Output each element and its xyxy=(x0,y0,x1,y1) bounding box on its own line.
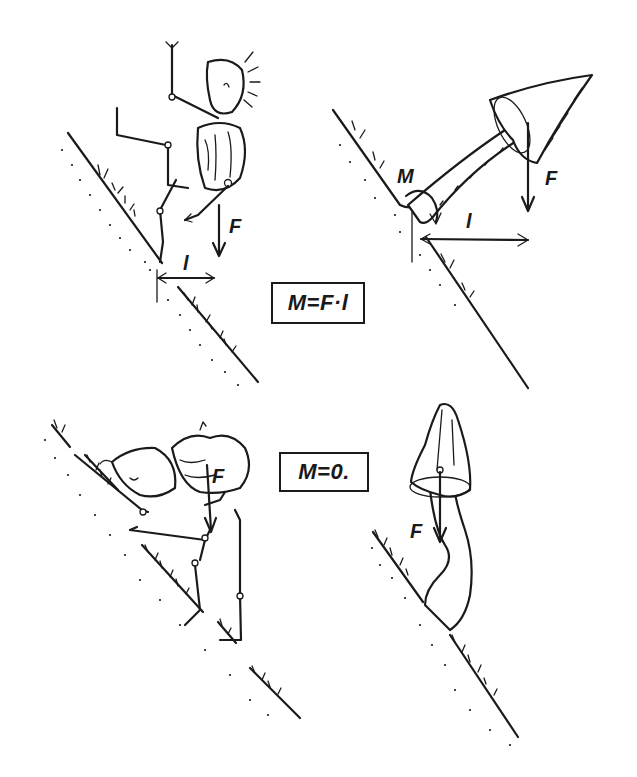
head xyxy=(112,448,175,497)
formula-moment-nonzero: M=F·l xyxy=(271,282,365,324)
slope-line xyxy=(333,110,420,208)
formula-moment-zero: M=0. xyxy=(279,452,369,492)
hair-spikes xyxy=(244,52,260,107)
backpack xyxy=(172,436,249,493)
force-label: F xyxy=(229,215,242,237)
mushroom-upright-panel: F xyxy=(371,404,518,746)
head xyxy=(207,60,244,114)
mushroom-cap xyxy=(490,75,592,163)
lever-arm-label: l xyxy=(466,210,472,232)
mushroom-stem xyxy=(408,130,518,223)
slope-line xyxy=(373,532,423,602)
lever-arm-label: l xyxy=(183,252,189,274)
slope-line xyxy=(426,237,528,388)
torso xyxy=(130,527,210,560)
backpack xyxy=(197,123,245,190)
physics-illustration: F l M F l xyxy=(0,0,637,777)
lever-arm-arrow xyxy=(421,239,528,240)
slope-line xyxy=(142,545,203,612)
slope-line xyxy=(450,635,518,737)
force-label: F xyxy=(545,167,558,189)
slope-line xyxy=(68,133,162,263)
leg xyxy=(160,148,188,262)
force-label: F xyxy=(410,520,423,542)
slope-line xyxy=(52,425,70,447)
slope-line xyxy=(250,668,300,718)
arm xyxy=(117,108,166,145)
force-label: F xyxy=(212,465,225,487)
slope-line xyxy=(178,287,258,382)
mushroom-leaning-panel: M F l xyxy=(333,75,592,388)
climber-upright-panel: F xyxy=(44,420,300,718)
mushroom-stem xyxy=(425,490,472,630)
climber-leaning-panel: F l xyxy=(61,42,260,386)
moment-label: M xyxy=(397,165,415,187)
